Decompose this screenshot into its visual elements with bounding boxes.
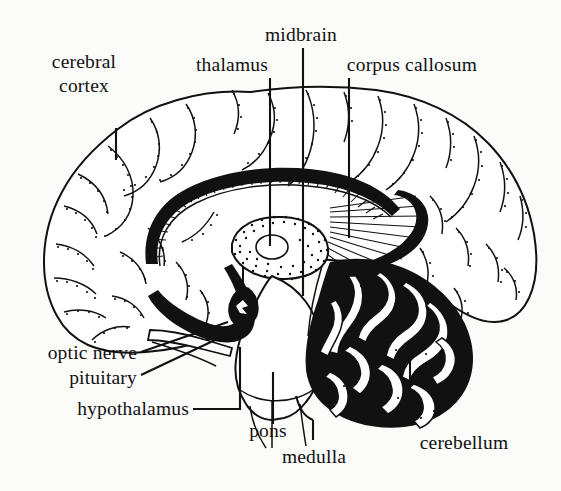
label-cerebellum: cerebellum <box>420 432 509 453</box>
label-cerebral-cortex-line2: cortex <box>59 75 109 96</box>
label-corpus-callosum: corpus callosum <box>347 54 477 75</box>
label-midbrain: midbrain <box>265 24 337 45</box>
label-pons: pons <box>249 420 287 441</box>
label-pituitary: pituitary <box>69 367 137 388</box>
label-thalamus: thalamus <box>196 54 268 75</box>
brain-diagram-figure: cerebral cortex thalamus midbrain corpus… <box>0 0 561 491</box>
label-optic-nerve: optic nerve <box>48 342 137 363</box>
label-hypothalamus: hypothalamus <box>77 398 189 419</box>
label-medulla: medulla <box>282 446 346 467</box>
brain-midsagittal-svg: cerebral cortex thalamus midbrain corpus… <box>0 0 561 491</box>
label-cerebral-cortex-line1: cerebral <box>52 51 117 72</box>
thalamus-inner-cavity <box>256 235 288 259</box>
